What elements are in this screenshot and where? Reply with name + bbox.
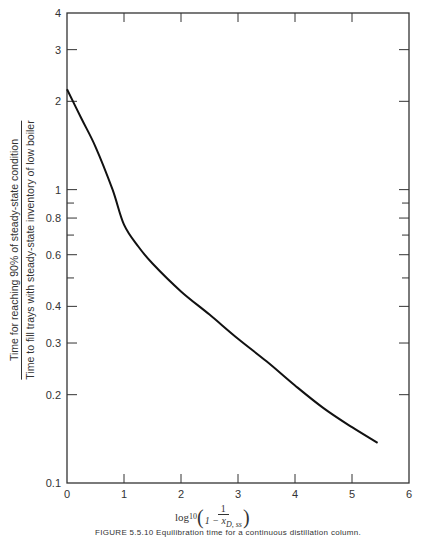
right-paren: ) bbox=[243, 507, 250, 527]
x-axis-ticks: 0123456 bbox=[64, 13, 412, 500]
y-tick-label: 0.8 bbox=[46, 212, 61, 224]
y-tick-label: 0.3 bbox=[46, 337, 61, 349]
y-label-numerator: Time for reaching 90% of steady-state co… bbox=[8, 120, 22, 379]
y-label-denominator: Time to fill trays with steady-state inv… bbox=[22, 120, 36, 379]
y-tick-label: 3 bbox=[55, 44, 61, 56]
x-tick-label: 2 bbox=[178, 488, 184, 500]
x-tick-label: 6 bbox=[406, 488, 412, 500]
x-label-fraction: 1 1 − xD, ss bbox=[205, 503, 242, 530]
y-tick-label: 1 bbox=[55, 184, 61, 196]
data-curve bbox=[67, 89, 378, 443]
x-tick-label: 4 bbox=[292, 488, 298, 500]
left-paren: ( bbox=[197, 507, 204, 527]
x-tick-label: 5 bbox=[349, 488, 355, 500]
y-tick-label: 0.2 bbox=[46, 389, 61, 401]
y-tick-label: 2 bbox=[55, 95, 61, 107]
x-label-log-base: 10 bbox=[189, 512, 197, 521]
x-label-log: log bbox=[175, 511, 189, 523]
x-axis-label: log10 ( 1 1 − xD, ss ) bbox=[175, 503, 250, 530]
plot-frame bbox=[67, 13, 409, 483]
x-tick-label: 0 bbox=[64, 488, 70, 500]
x-label-frac-den-text: 1 − x bbox=[205, 515, 226, 526]
y-tick-label: 4 bbox=[55, 7, 61, 19]
y-tick-label: 0.6 bbox=[46, 249, 61, 261]
x-tick-label: 3 bbox=[235, 488, 241, 500]
chart-canvas: 43210.80.60.40.30.20.1 0123456 bbox=[0, 0, 427, 539]
y-axis-ticks: 43210.80.60.40.30.20.1 bbox=[46, 7, 409, 489]
x-tick-label: 1 bbox=[121, 488, 127, 500]
figure-caption: FIGURE 5.5.10 Equilibration time for a c… bbox=[95, 528, 361, 537]
plot-border bbox=[67, 13, 409, 483]
x-label-frac-numerator: 1 bbox=[218, 503, 229, 515]
y-tick-label: 0.1 bbox=[46, 477, 61, 489]
y-tick-label: 0.4 bbox=[46, 300, 61, 312]
